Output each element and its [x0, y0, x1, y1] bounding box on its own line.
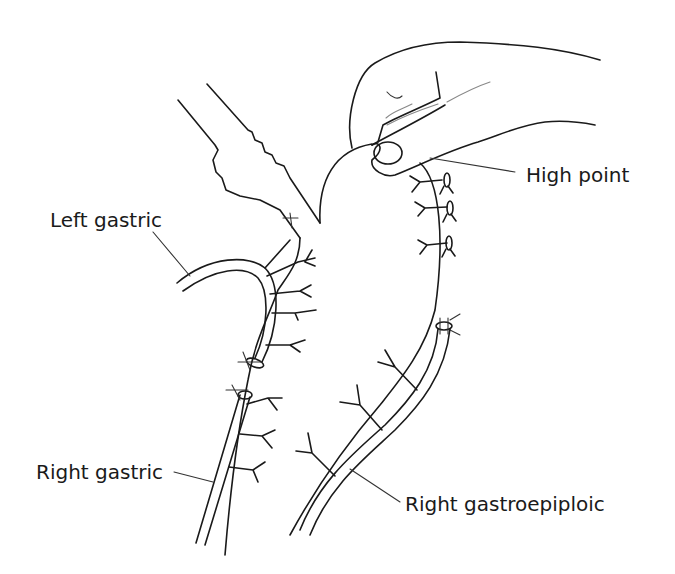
esophagus-drawing	[178, 84, 320, 238]
label-right-gastroepiploic: Right gastroepiploic	[405, 494, 605, 514]
label-right-gastric: Right gastric	[36, 462, 163, 482]
anatomical-diagram: Left gastric High point Right gastric Ri…	[0, 0, 675, 574]
left-gastric-artery	[177, 213, 316, 370]
label-high-point: High point	[526, 165, 629, 185]
label-left-gastric: Left gastric	[50, 210, 162, 230]
leader-high-point	[430, 158, 515, 172]
leader-right-gastroepiploic	[350, 469, 400, 502]
diagram-artwork	[0, 0, 675, 574]
leader-right-gastric	[174, 472, 213, 482]
hand-drawing	[350, 42, 600, 176]
leader-left-gastric	[153, 232, 190, 276]
right-gastric-artery	[196, 385, 282, 545]
